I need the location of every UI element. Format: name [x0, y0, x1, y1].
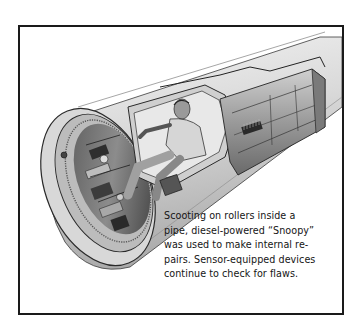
caption-line-4: pairs. Sensor-equipped devices	[164, 253, 344, 268]
caption-line-2: pipe, diesel-powered “Snoopy”	[164, 224, 344, 239]
caption-line-1: Scooting on rollers inside a	[164, 209, 344, 224]
caption: Scooting on rollers inside a pipe, diese…	[164, 209, 344, 282]
caption-line-3: was used to make internal re-	[164, 238, 344, 253]
figure-frame: Scooting on rollers inside a pipe, diese…	[18, 25, 344, 315]
caption-line-5: continue to check for flaws.	[164, 267, 344, 282]
